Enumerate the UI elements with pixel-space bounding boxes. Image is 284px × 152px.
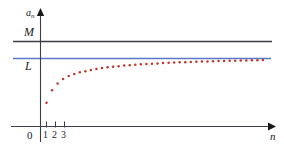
sequence-convergence-figure: an M L n 0 1 2 3	[0, 0, 284, 152]
data-point	[123, 64, 126, 67]
data-point	[167, 62, 170, 65]
data-point	[134, 64, 137, 67]
data-point	[73, 73, 76, 76]
x-axis-label: n	[270, 131, 276, 142]
x-tick-label-3: 3	[61, 130, 66, 140]
y-axis-label-subscript: n	[31, 12, 35, 20]
data-point	[262, 59, 265, 62]
data-point	[112, 65, 115, 68]
data-point	[129, 64, 132, 67]
data-point	[178, 61, 181, 64]
data-point	[223, 60, 226, 63]
data-point	[79, 71, 82, 74]
data-point	[217, 60, 220, 63]
y-axis-label: an	[26, 8, 35, 18]
data-point	[251, 59, 254, 62]
data-point	[140, 63, 143, 66]
data-point	[184, 61, 187, 64]
data-point	[67, 75, 70, 78]
data-point	[145, 63, 148, 66]
x-tick-label-2: 2	[52, 130, 57, 140]
y-axis-arrowhead	[37, 8, 44, 16]
data-point	[90, 69, 93, 72]
data-point	[84, 70, 87, 73]
data-point	[151, 62, 154, 65]
data-point	[106, 66, 109, 69]
limit-label-L: L	[25, 60, 32, 72]
data-point	[240, 59, 243, 62]
upper-bound-label-M: M	[24, 26, 34, 38]
x-tick-label-1: 1	[43, 130, 48, 140]
data-point	[56, 82, 59, 85]
data-point	[45, 102, 48, 105]
data-point	[206, 60, 209, 63]
origin-label: 0	[27, 130, 33, 141]
data-point	[234, 59, 237, 62]
data-point	[173, 61, 176, 64]
data-point	[195, 60, 198, 63]
data-point	[201, 60, 204, 63]
data-point	[51, 89, 54, 92]
data-point	[162, 62, 165, 64]
data-point	[212, 60, 215, 63]
data-point	[256, 59, 259, 62]
data-point	[228, 60, 231, 63]
data-point	[95, 68, 98, 71]
data-point	[190, 61, 193, 64]
sequence-data-points	[45, 59, 264, 104]
data-point	[62, 78, 65, 81]
data-point	[245, 59, 248, 62]
data-point	[117, 65, 120, 68]
data-point	[156, 62, 159, 65]
data-point	[101, 67, 104, 70]
